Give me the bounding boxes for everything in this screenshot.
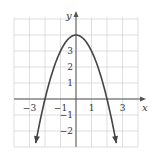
svg-text:1: 1 <box>67 78 73 88</box>
x-axis-label: x <box>142 102 148 113</box>
svg-text:−1: −1 <box>60 110 73 120</box>
y-axis-label: y <box>65 10 72 21</box>
svg-text:3: 3 <box>67 46 73 56</box>
axes <box>14 11 146 147</box>
parabola-chart: −3−113−2−1123 x y <box>0 0 155 157</box>
svg-text:−3: −3 <box>23 103 37 113</box>
tick-labels: −3−113−2−1123 <box>23 46 126 136</box>
svg-text:3: 3 <box>120 103 126 113</box>
svg-text:−2: −2 <box>60 126 73 136</box>
svg-text:2: 2 <box>67 62 73 72</box>
svg-text:1: 1 <box>89 103 95 113</box>
